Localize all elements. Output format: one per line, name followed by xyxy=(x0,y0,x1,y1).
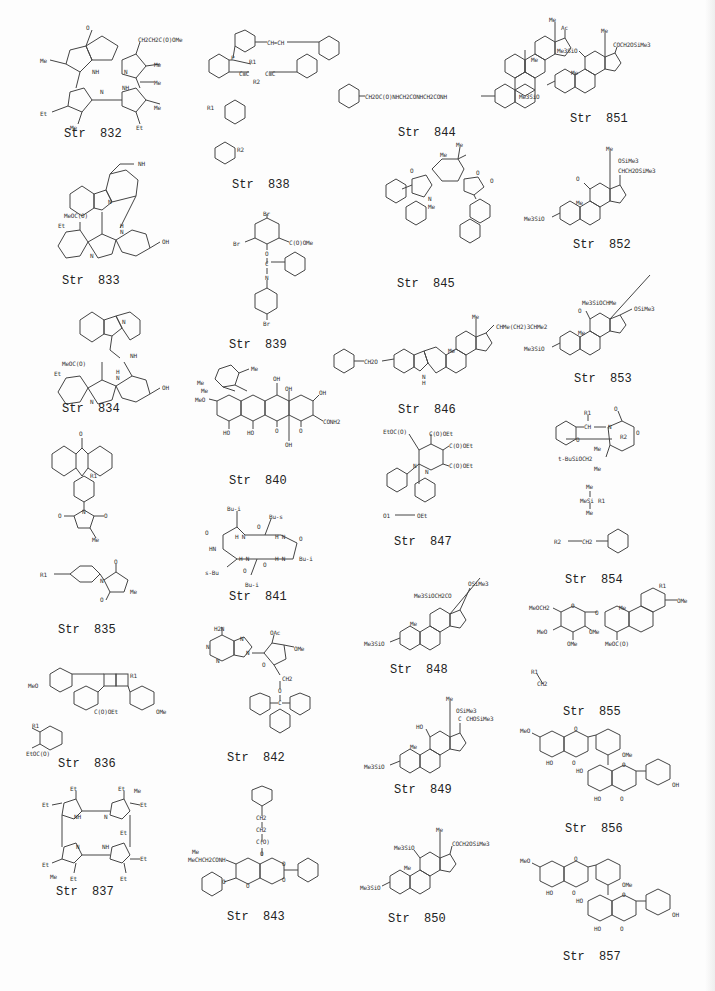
atom-label: O xyxy=(282,860,285,867)
chemical-structure-drawing xyxy=(520,725,710,820)
atom-label: C(O)OEt xyxy=(449,442,473,449)
atom-label: Me xyxy=(410,620,417,627)
atom-label: Et xyxy=(42,861,49,868)
atom-label: O xyxy=(620,925,623,932)
atom-label: EtOC(O) xyxy=(383,428,407,435)
atom-label: H N xyxy=(235,533,245,540)
atom-label: Me xyxy=(601,27,608,34)
atom-label: MeO xyxy=(520,857,530,864)
atom-label: N xyxy=(216,657,219,664)
atom-label: N xyxy=(116,374,119,381)
structure-caption: Str 839 xyxy=(229,338,287,352)
atom-label: OSiMe3 xyxy=(468,580,488,587)
atom-label: Me xyxy=(586,509,593,516)
structure-caption: Str 847 xyxy=(394,535,452,549)
atom-label: HO xyxy=(576,767,583,774)
chemical-structure-drawing xyxy=(360,695,520,790)
atom-label: O xyxy=(622,761,625,768)
atom-label: O xyxy=(243,567,246,574)
atom-label: CH2 xyxy=(282,675,292,682)
atom-label: Me3SiO xyxy=(524,215,544,222)
atom-label: OH xyxy=(285,441,292,448)
atom-label: OH xyxy=(319,389,326,396)
structure-834: N NH MeOC(O) Et H N N OH xyxy=(40,306,180,416)
structure-855: R1 OMe MeOCH2 O O Me MeO OMe OMe MeOC(O)… xyxy=(525,590,710,700)
atom-label: O xyxy=(246,882,249,889)
atom-label: Me xyxy=(197,379,204,386)
atom-label: OSiMe3 xyxy=(618,157,638,164)
atom-label: O xyxy=(636,429,639,436)
atom-label: Et xyxy=(58,222,65,229)
structure-856: MeO O OMe HO O HO O OH HO O xyxy=(520,725,710,820)
atom-label: C(O)OMe xyxy=(289,239,313,246)
atom-label: Et xyxy=(120,829,127,836)
structure-832: O CH2CH2C(O)OMe Me NH N Me Me N NH Et Me… xyxy=(30,20,180,140)
chemical-structure-drawing xyxy=(40,160,180,270)
atom-label: Me xyxy=(428,203,435,210)
chemical-structure-drawing xyxy=(520,855,710,950)
atom-label: N xyxy=(124,68,127,75)
structure-caption: Str 833 xyxy=(62,274,120,288)
chemical-structure-drawing xyxy=(40,306,180,416)
atom-label: R1 xyxy=(598,497,605,504)
atom-label: N xyxy=(104,813,107,820)
atom-label: OMe xyxy=(622,751,632,758)
atom-label: N xyxy=(122,318,125,325)
chemical-structure-drawing xyxy=(200,625,350,745)
atom-label: O xyxy=(205,529,208,536)
structure-853: Me3SiOCHMe OSiMe3 O Me Me3SiO xyxy=(540,275,710,375)
atom-label: OMe xyxy=(589,628,599,635)
atom-label: Me3SiOCHMe xyxy=(582,299,616,306)
chemical-structure-drawing xyxy=(540,275,710,375)
atom-label: Me xyxy=(436,826,443,833)
atom-label: MeOC(O) xyxy=(62,360,86,367)
document-page: O CH2CH2C(O)OMe Me NH N Me Me N NH Et Me… xyxy=(0,0,715,991)
atom-label: Me xyxy=(440,151,447,158)
atom-label: R2 xyxy=(620,433,627,440)
structure-caption: Str 842 xyxy=(227,751,285,765)
atom-label: Me3SiO xyxy=(394,844,414,851)
atom-label: Et xyxy=(140,855,147,862)
atom-label: O xyxy=(114,558,117,565)
atom-label: Me xyxy=(134,787,141,794)
atom-label: O xyxy=(620,795,623,802)
atom-label: R1 xyxy=(531,668,538,675)
atom-label: NH xyxy=(138,160,145,167)
atom-label: R1 xyxy=(207,104,214,111)
atom-label: O xyxy=(58,512,61,519)
atom-label: OMe xyxy=(156,708,166,715)
chemical-structure-drawing xyxy=(205,30,345,160)
atom-label: HO xyxy=(594,925,601,932)
structure-caption: Str 843 xyxy=(227,910,285,924)
atom-label: C≡C xyxy=(239,70,249,77)
atom-label: R1 xyxy=(584,409,591,416)
atom-label: O xyxy=(614,405,617,412)
atom-label: CONH2 xyxy=(323,418,340,425)
atom-label: R1 xyxy=(90,472,97,479)
atom-label: Me xyxy=(578,329,585,336)
atom-label: CH2 xyxy=(256,814,266,821)
atom-label: Me xyxy=(446,695,453,702)
atom-label: CH2O xyxy=(364,358,378,365)
atom-label: O xyxy=(410,167,413,174)
atom-label: Me xyxy=(154,79,161,86)
atom-label: HO xyxy=(247,429,254,436)
atom-label: O xyxy=(476,169,479,176)
atom-label: O xyxy=(86,24,89,31)
atom-label: C(O)OEt xyxy=(429,430,453,437)
atom-label: HN xyxy=(209,545,216,552)
atom-label: O xyxy=(572,889,575,896)
atom-label: CHCH2OSiMe3 xyxy=(618,167,656,174)
atom-label: O xyxy=(574,855,577,862)
chemical-structure-drawing xyxy=(190,790,360,900)
atom-label: O xyxy=(278,687,281,694)
structure-850: Me COCH2OSiMe3 Me3SiO Me Me3SiO xyxy=(360,830,510,925)
atom-label: CH2 xyxy=(537,680,547,687)
atom-label: N xyxy=(108,198,111,205)
structure-caption: Str 838 xyxy=(232,178,290,192)
atom-label: HO xyxy=(546,889,553,896)
atom-label: OMe xyxy=(677,597,687,604)
atom-label: O xyxy=(282,876,285,883)
atom-label: R1 xyxy=(130,672,137,679)
atom-label: C xyxy=(458,715,461,722)
